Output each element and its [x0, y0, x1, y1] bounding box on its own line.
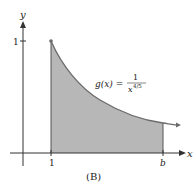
function-label-exponent: 4/5 — [133, 83, 142, 89]
function-label-numerator: 1 — [133, 73, 138, 82]
start-point — [49, 39, 53, 43]
x-tick-label-1: 1 — [49, 158, 55, 168]
figure-caption: (B) — [86, 171, 101, 182]
y-axis-arrow-icon — [20, 21, 26, 28]
integral-diagram: y x 1 1 b g(x) = 1 x 4/5 (B) — [0, 0, 195, 186]
x-tick-label-b: b — [160, 158, 166, 168]
x-axis-label: x — [187, 148, 193, 159]
y-tick-label-1: 1 — [13, 37, 19, 47]
x-axis-arrow-icon — [179, 150, 186, 156]
curve-arrow-icon — [176, 123, 181, 128]
y-axis-label: y — [19, 9, 26, 20]
function-label-lhs: g(x) = — [95, 79, 123, 89]
shaded-region — [51, 41, 163, 153]
